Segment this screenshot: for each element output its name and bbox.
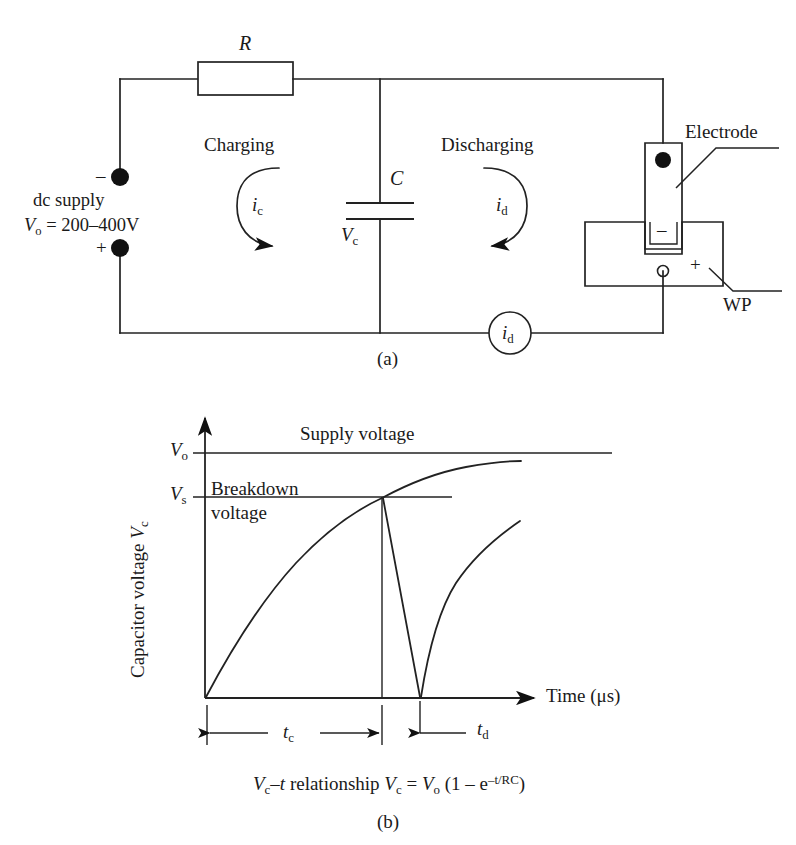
equation-open-paren: (1 – e bbox=[440, 773, 488, 794]
circuit-diagram bbox=[111, 62, 782, 354]
capacitor-voltage-subscript: c bbox=[353, 233, 359, 248]
workpiece-leader-line bbox=[709, 268, 782, 291]
supply-terminal-negative-dot bbox=[111, 168, 129, 186]
supply-voltage-subscript: o bbox=[35, 224, 41, 238]
tc-label: tc bbox=[283, 722, 294, 741]
supply-voltage-value: = 200–400V bbox=[42, 215, 140, 235]
electrode-leader-line bbox=[676, 148, 779, 188]
graph-y-axis-label: Capacitor voltage Vc bbox=[128, 521, 147, 678]
equation-vc-subscript: c bbox=[265, 782, 271, 797]
equation-vc-subscript-2: c bbox=[396, 782, 402, 797]
caption-a: (a) bbox=[377, 349, 398, 368]
resistor-body bbox=[198, 62, 293, 95]
caption-b: (b) bbox=[377, 812, 399, 831]
capacitor-label: C bbox=[390, 168, 403, 188]
tick-label-vo: Vo bbox=[170, 440, 188, 459]
charging-curve-2 bbox=[421, 521, 520, 697]
supply-voltage-symbol: V bbox=[24, 215, 35, 235]
workpiece-polarity-label: + bbox=[690, 255, 701, 274]
equation-close-paren: ) bbox=[519, 773, 525, 794]
breakdown-voltage-annotation-line1: Breakdown bbox=[211, 479, 299, 498]
y-axis-label-symbol: V bbox=[127, 527, 148, 539]
equation-vs-t: –t bbox=[270, 773, 285, 794]
td-subscript: d bbox=[482, 727, 488, 742]
supply-voltage-annotation: Supply voltage bbox=[300, 424, 415, 443]
capacitor-voltage-symbol: V bbox=[341, 224, 353, 245]
discharge-curve-1 bbox=[383, 498, 420, 697]
electrode-polarity-label: – bbox=[657, 220, 667, 239]
resistor-label: R bbox=[239, 33, 251, 53]
tick-vs-subscript: s bbox=[182, 492, 187, 507]
equation-vo-subscript: o bbox=[434, 782, 440, 797]
y-axis-label-text: Capacitor voltage bbox=[127, 539, 148, 678]
charging-current-label: ic bbox=[252, 195, 263, 214]
tick-vo-subscript: o bbox=[182, 448, 188, 463]
workpiece-label: WP bbox=[723, 295, 752, 314]
equation-exponent: –t/RC bbox=[488, 772, 519, 787]
td-label: td bbox=[477, 719, 489, 738]
ammeter-subscript: d bbox=[507, 331, 513, 346]
capacitor-voltage-label: Vc bbox=[341, 225, 358, 244]
charging-curve-asymptote bbox=[382, 461, 521, 498]
electrode-label: Electrode bbox=[685, 122, 758, 141]
workpiece-body bbox=[585, 222, 723, 286]
ammeter-label: id bbox=[502, 323, 514, 342]
discharging-label: Discharging bbox=[441, 135, 534, 154]
y-axis-label-subscript: c bbox=[136, 521, 151, 527]
tick-vo-symbol: V bbox=[170, 439, 182, 460]
tick-vs-symbol: V bbox=[170, 483, 182, 504]
equation-equals: = bbox=[402, 773, 422, 794]
supply-terminal-positive-dot bbox=[111, 239, 129, 257]
equation-vc-symbol: V bbox=[253, 773, 265, 794]
supply-positive-sign: + bbox=[96, 238, 107, 257]
breakdown-voltage-annotation-line2: voltage bbox=[211, 503, 267, 522]
tc-subscript: c bbox=[288, 730, 294, 745]
graph-equation: Vc–t relationship Vc = Vo (1 – e–t/RC) bbox=[253, 774, 525, 793]
charging-label: Charging bbox=[204, 135, 274, 154]
discharging-current-subscript: d bbox=[501, 203, 507, 218]
discharging-current-label: id bbox=[496, 195, 508, 214]
supply-value-label: Vo = 200–400V bbox=[24, 216, 139, 235]
equation-vc-symbol-2: V bbox=[384, 773, 396, 794]
supply-name-label: dc supply bbox=[33, 191, 104, 210]
charging-curve-1 bbox=[206, 498, 382, 697]
figure-root: R Charging ic Discharging id – + dc supp… bbox=[0, 0, 796, 845]
electrode-connection-dot bbox=[655, 152, 671, 168]
charging-current-subscript: c bbox=[257, 203, 263, 218]
graph-x-axis-label: Time (μs) bbox=[546, 686, 620, 705]
equation-vo-symbol: V bbox=[422, 773, 434, 794]
supply-negative-sign: – bbox=[96, 166, 106, 185]
tick-label-vs: Vs bbox=[170, 484, 187, 503]
equation-relationship-word: relationship bbox=[285, 773, 384, 794]
